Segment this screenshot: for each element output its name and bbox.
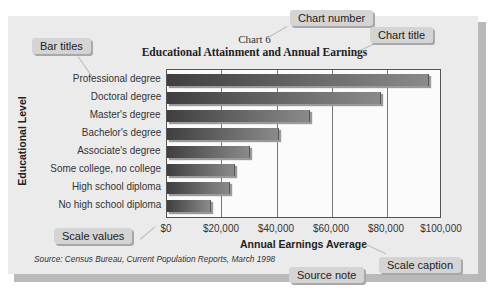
bar [167,182,230,194]
x-tick-label: $40,000 [258,222,294,234]
bar [167,164,235,176]
bar [167,110,310,122]
callout-source-note: Source note [289,267,364,283]
y-axis-label: Educational Level [16,91,28,191]
plot-area [166,69,441,218]
bar [167,200,211,212]
category-label: Master's degree [90,108,161,120]
bar [167,74,429,86]
category-label: High school diploma [72,180,161,192]
category-label: Professional degree [73,72,161,84]
callout-chart-number: Chart number [290,10,373,26]
x-tick-label: $100,000 [420,222,461,234]
x-tick-label: $0 [160,222,171,234]
x-tick-label: $80,000 [368,222,404,234]
callout-bar-titles: Bar titles [32,38,91,54]
category-label: Some college, no college [50,162,161,174]
category-label: Associate's degree [78,144,161,156]
gridline [387,70,388,217]
callout-scale-values: Scale values [54,228,132,244]
category-label: Bachelor's degree [82,126,161,138]
x-tick-label: $60,000 [313,222,349,234]
x-tick-label: $20,000 [203,222,239,234]
callout-scale-caption: Scale caption [379,257,461,273]
bar [167,128,279,140]
source-note: Source: Census Bureau, Current Populatio… [34,254,275,264]
x-axis-label: Annual Earnings Average [166,238,441,250]
category-label: Doctoral degree [91,90,161,102]
category-label: No high school diploma [58,198,161,210]
bar [167,146,250,158]
bar [167,92,381,104]
callout-chart-title: Chart title [370,27,433,43]
